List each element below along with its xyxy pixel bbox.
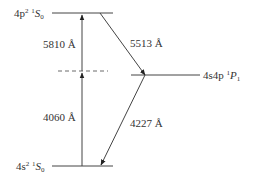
intermediate-term-J: 1 (237, 75, 241, 83)
label-wavelength-5513: 5513 Å (130, 37, 163, 49)
ground-config-sup: 2 (26, 160, 30, 168)
energy-diagram-canvas (0, 0, 258, 180)
label-wavelength-5810: 5810 Å (43, 38, 76, 50)
label-wavelength-4227: 4227 Å (130, 117, 163, 129)
label-level-intermediate: 4s4p 1P1 (203, 69, 240, 81)
label-level-ground: 4s2 1S0 (16, 160, 45, 172)
ground-term-J: 0 (41, 166, 45, 174)
upper-config: 4p (14, 7, 25, 19)
intermediate-config: 4s4p (203, 69, 224, 81)
upper-config-sup: 2 (25, 7, 29, 15)
intermediate-term-L: P (230, 69, 237, 81)
ground-config: 4s (16, 160, 26, 172)
label-wavelength-4060: 4060 Å (43, 111, 76, 123)
upper-term-J: 0 (40, 13, 44, 21)
label-level-upper: 4p2 1S0 (14, 7, 44, 19)
